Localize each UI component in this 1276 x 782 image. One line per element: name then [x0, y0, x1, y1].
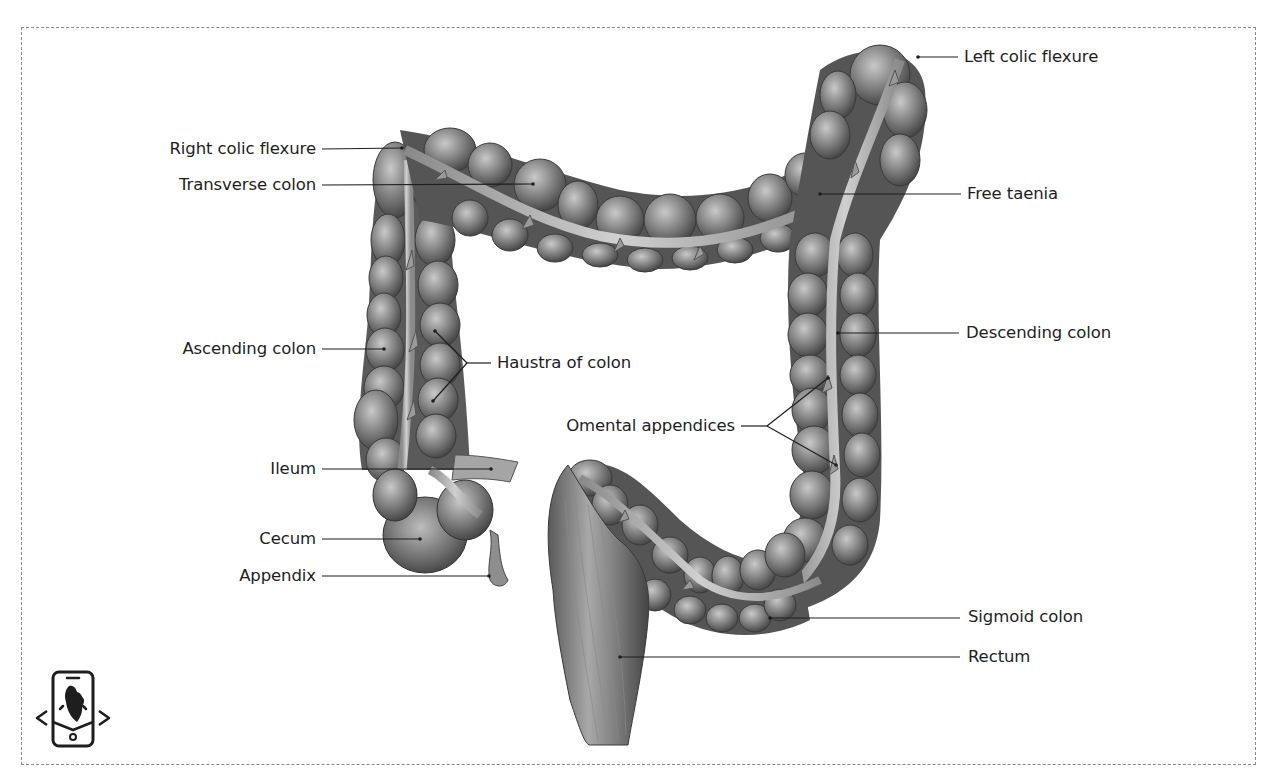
label-left-colic-flexure: Left colic flexure — [964, 47, 1098, 67]
label-descending-colon: Descending colon — [966, 323, 1111, 343]
label-haustra-of-colon: Haustra of colon — [497, 353, 631, 373]
label-transverse-colon: Transverse colon — [130, 175, 316, 195]
label-appendix: Appendix — [130, 566, 316, 586]
label-right-colic-flexure: Right colic flexure — [130, 139, 316, 159]
label-sigmoid-colon: Sigmoid colon — [968, 607, 1083, 627]
descending-colon-shape — [770, 45, 927, 610]
label-cecum: Cecum — [130, 529, 316, 549]
mobile-anatomy-heart-icon — [33, 668, 113, 748]
appendix-shape — [489, 530, 508, 586]
label-rectum: Rectum — [968, 647, 1030, 667]
label-omental-appendices: Omental appendices — [520, 416, 735, 436]
label-free-taenia: Free taenia — [967, 184, 1058, 204]
label-ascending-colon: Ascending colon — [130, 339, 316, 359]
label-ileum: Ileum — [130, 459, 316, 479]
cecum-shape — [373, 469, 493, 573]
colon-illustration — [0, 0, 1276, 782]
